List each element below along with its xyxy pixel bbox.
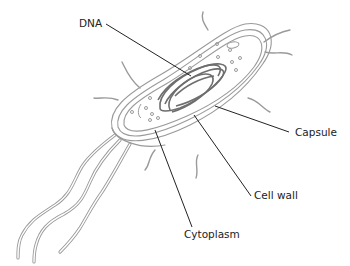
label-cytoplasm: Cytoplasm [184, 229, 240, 240]
capsule-outline [111, 23, 271, 140]
cytoplasm-leader [155, 130, 192, 227]
cell-wall-leader [194, 115, 251, 196]
label-dna: DNA [79, 18, 102, 29]
flagella [18, 135, 130, 262]
label-capsule: Capsule [295, 127, 337, 138]
dna-leader [106, 24, 191, 76]
label-cell-wall: Cell wall [254, 190, 298, 201]
capsule-leader [215, 106, 289, 132]
